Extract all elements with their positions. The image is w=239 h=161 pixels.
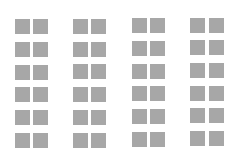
gray-tile [132, 109, 147, 124]
gray-tile [15, 87, 30, 102]
gray-tile [190, 63, 205, 78]
gray-tile [91, 19, 106, 34]
gray-tile [209, 18, 224, 33]
gray-tile [91, 42, 106, 57]
gray-tile [132, 41, 147, 56]
gray-tile [15, 65, 30, 80]
gray-tile [190, 86, 205, 101]
gray-tile [73, 133, 88, 148]
gray-tile [190, 18, 205, 33]
gray-tile [150, 86, 165, 101]
gray-tile [190, 40, 205, 55]
gray-tile [15, 133, 30, 148]
gray-tile [209, 40, 224, 55]
gray-tile [150, 41, 165, 56]
gray-tile [209, 63, 224, 78]
gray-tile [209, 108, 224, 123]
gray-tile [73, 110, 88, 125]
gray-tile [33, 87, 48, 102]
gray-tile [190, 108, 205, 123]
gray-tile [91, 87, 106, 102]
gray-tile [132, 18, 147, 33]
gray-tile [15, 19, 30, 34]
gray-tile [73, 64, 88, 79]
gray-tile [150, 132, 165, 147]
tile-grid-canvas [0, 0, 239, 161]
gray-tile [33, 65, 48, 80]
gray-tile [33, 19, 48, 34]
gray-tile [33, 42, 48, 57]
gray-tile [209, 86, 224, 101]
gray-tile [91, 110, 106, 125]
gray-tile [132, 86, 147, 101]
gray-tile [33, 110, 48, 125]
gray-tile [209, 131, 224, 146]
gray-tile [91, 133, 106, 148]
gray-tile [132, 64, 147, 79]
gray-tile [15, 42, 30, 57]
gray-tile [150, 18, 165, 33]
gray-tile [190, 131, 205, 146]
gray-tile [73, 87, 88, 102]
gray-tile [15, 110, 30, 125]
gray-tile [150, 109, 165, 124]
gray-tile [73, 42, 88, 57]
gray-tile [132, 132, 147, 147]
gray-tile [150, 64, 165, 79]
gray-tile [91, 64, 106, 79]
gray-tile [73, 19, 88, 34]
gray-tile [33, 133, 48, 148]
